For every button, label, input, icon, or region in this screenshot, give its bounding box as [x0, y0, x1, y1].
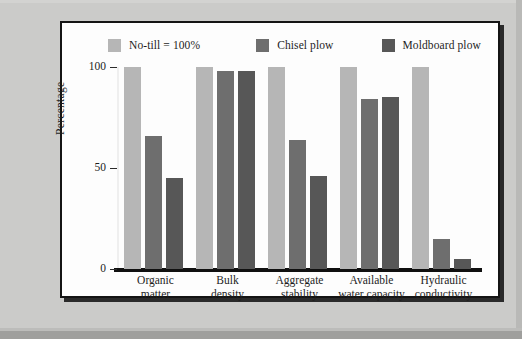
legend-item-moldboard-plow: Moldboard plow — [382, 39, 481, 52]
legend-label-no-till: No-till = 100% — [129, 39, 200, 51]
x-category-label-line: conductivity — [384, 288, 504, 302]
legend-item-no-till: No-till = 100% — [108, 39, 200, 52]
bar — [361, 99, 378, 269]
bar — [340, 67, 357, 269]
chart-frame: No-till = 100% Chisel plow Moldboard plo… — [60, 21, 500, 298]
page-edge-top — [0, 0, 522, 3]
bar-group — [268, 67, 327, 269]
y-tick-label: 0 — [76, 262, 106, 274]
bar — [382, 97, 399, 269]
plot-area — [118, 67, 478, 269]
y-tick-mark — [110, 269, 117, 270]
bar — [124, 67, 141, 269]
bar — [454, 259, 471, 269]
bar — [166, 178, 183, 269]
bar — [238, 71, 255, 269]
bar — [196, 67, 213, 269]
bar — [217, 71, 234, 269]
y-axis-title: Percentage — [54, 82, 66, 135]
legend-label-moldboard-plow: Moldboard plow — [403, 39, 481, 51]
bar — [412, 67, 429, 269]
bar-group — [124, 67, 183, 269]
bar — [145, 136, 162, 269]
legend-item-chisel-plow: Chisel plow — [256, 39, 333, 52]
bar — [433, 239, 450, 269]
y-tick-label: 50 — [76, 161, 106, 173]
page-edge-right — [516, 0, 522, 339]
x-category-label: Hydraulicconductivity — [384, 274, 504, 301]
bar-group — [196, 67, 255, 269]
legend-swatch-no-till — [108, 39, 121, 52]
x-category-label-line: Hydraulic — [384, 274, 504, 288]
bar-group — [412, 67, 471, 269]
y-tick-mark — [110, 67, 117, 68]
bar — [268, 67, 285, 269]
legend-swatch-chisel-plow — [256, 39, 269, 52]
bar — [289, 140, 306, 269]
page-edge-bottom — [0, 331, 522, 339]
y-tick-label: 100 — [76, 60, 106, 72]
chart-legend: No-till = 100% Chisel plow Moldboard plo… — [108, 35, 488, 55]
legend-label-chisel-plow: Chisel plow — [277, 39, 333, 51]
bar — [310, 176, 327, 269]
legend-swatch-moldboard-plow — [382, 39, 395, 52]
y-tick-mark — [110, 168, 117, 169]
bar-group — [340, 67, 399, 269]
